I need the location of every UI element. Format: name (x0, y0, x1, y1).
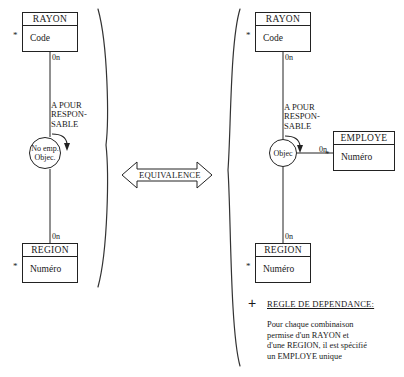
right-group-brace (228, 9, 240, 366)
left-entity-region[interactable]: REGION Numéro (22, 243, 78, 283)
right-entity-rayon-attribute: Code (256, 26, 310, 54)
left-rayon-cardinality: 0n (52, 54, 60, 62)
right-rayon-cardinality: 0n (285, 54, 293, 62)
right-entity-rayon-identifier-marker: * (246, 31, 251, 40)
left-relationship-circle-line2: Objec. (34, 153, 55, 162)
left-entity-rayon[interactable]: RAYON Code (22, 12, 78, 52)
left-relationship-circle[interactable]: No emp. Objec. (29, 137, 61, 169)
rule-plus-icon: + (248, 296, 256, 310)
left-entity-region-name: REGION (23, 244, 77, 257)
left-entity-region-attribute: Numéro (23, 257, 77, 285)
equivalence-label: EQUIVALENCE (139, 170, 201, 180)
left-relationship-label: A POURRESPON-SABLE (51, 101, 87, 129)
left-entity-rayon-name: RAYON (23, 13, 77, 26)
left-region-cardinality: 0n (52, 233, 60, 241)
right-entity-region-identifier-marker: * (246, 262, 251, 271)
right-entity-region-attribute: Numéro (256, 257, 310, 285)
right-relationship-label-line3: SABLE (284, 121, 311, 131)
left-relationship-arrowhead (64, 143, 70, 151)
rule-body: Pour chaque combinaison permise d'un RAY… (267, 320, 402, 362)
right-entity-rayon-name: RAYON (256, 13, 310, 26)
right-region-cardinality: 0n (285, 233, 293, 241)
right-entity-rayon[interactable]: RAYON Code (255, 12, 311, 52)
right-entity-employe-identifier-marker: * (325, 150, 330, 159)
right-entity-employe-attribute: Numéro (334, 145, 394, 173)
left-relationship-label-line3: SABLE (51, 119, 78, 129)
rule-title: REGLE DE DEPENDANCE: (267, 299, 374, 310)
left-entity-rayon-attribute: Code (23, 26, 77, 54)
right-entity-region[interactable]: REGION Numéro (255, 243, 311, 283)
left-entity-rayon-identifier-marker: * (13, 31, 18, 40)
left-relationship-circle-line1: No emp. (31, 144, 59, 153)
right-entity-employe-name: EMPLOYE (334, 132, 394, 145)
right-relationship-circle-line1: Objec (273, 149, 292, 158)
right-relationship-label: A POURRESPON-SABLE (284, 103, 320, 131)
left-entity-region-identifier-marker: * (13, 262, 18, 271)
right-entity-employe[interactable]: EMPLOYE Numéro (333, 131, 395, 171)
left-group-brace (98, 9, 107, 287)
right-relationship-circle[interactable]: Objec (269, 139, 297, 167)
right-relationship-arrowhead (297, 145, 303, 153)
right-entity-region-name: REGION (256, 244, 310, 257)
